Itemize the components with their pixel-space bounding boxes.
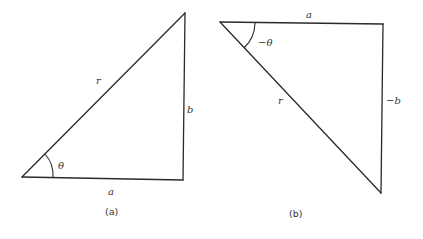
label-a-bottom: a (108, 186, 114, 197)
panel-a-triangle: r b θ a (a) (22, 13, 193, 217)
panel-b-triangle: a −θ r −b (b) (220, 9, 401, 219)
side-a-horizontal-b (220, 22, 383, 24)
label-r-a: r (96, 75, 102, 86)
angle-theta-arc (45, 154, 53, 178)
label-neg-b: −b (386, 95, 401, 106)
side-b-vertical (183, 13, 185, 180)
caption-b: (b) (289, 208, 302, 219)
label-a-top: a (306, 9, 312, 20)
label-r-b: r (278, 95, 284, 106)
side-a-horizontal (22, 177, 183, 180)
diagram-canvas: r b θ a (a) a −θ r −b (b) (0, 0, 423, 239)
label-neg-theta: −θ (258, 37, 272, 48)
side-r-hypotenuse (22, 13, 185, 177)
angle-neg-theta-arc (244, 23, 255, 48)
label-b: b (187, 104, 193, 115)
label-theta: θ (58, 160, 64, 171)
side-negb-vertical (381, 24, 383, 193)
caption-a: (a) (105, 206, 118, 217)
